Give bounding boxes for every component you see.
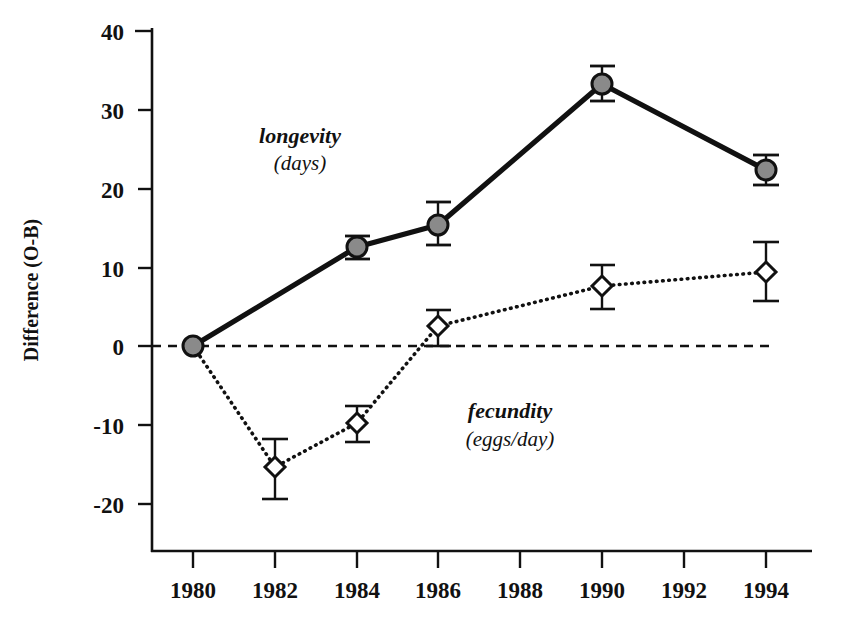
x-tick-label-1990: 1990 <box>579 578 625 603</box>
y-tick-label-10: 10 <box>101 257 124 282</box>
longevity-annotation-title: longevity <box>259 123 341 148</box>
longevity-point-1990 <box>592 74 612 94</box>
y-tick-label-minus10: -10 <box>93 414 124 439</box>
x-tick-label-1992: 1992 <box>661 578 707 603</box>
longevity-point-1986 <box>428 215 448 235</box>
fecundity-annotation-title: fecundity <box>468 398 553 423</box>
x-tick-label-1984: 1984 <box>334 578 381 603</box>
x-tick-label-1986: 1986 <box>415 578 461 603</box>
x-tick-label-1988: 1988 <box>497 578 543 603</box>
longevity-point-1980 <box>183 336 203 356</box>
difference-line-chart: Difference (O-B) 40 30 20 10 0 -10 -20 <box>0 0 851 630</box>
x-tick-label-1980: 1980 <box>170 578 216 603</box>
longevity-annotation-units: (days) <box>274 151 326 175</box>
y-tick-label-20: 20 <box>101 178 124 203</box>
x-tick-label-1982: 1982 <box>252 578 298 603</box>
chart-background <box>0 0 851 630</box>
longevity-point-1984 <box>347 237 367 257</box>
y-axis-label: Difference (O-B) <box>20 219 43 361</box>
y-tick-label-30: 30 <box>101 99 124 124</box>
chart-figure: Difference (O-B) 40 30 20 10 0 -10 -20 <box>0 0 851 630</box>
longevity-point-1994 <box>756 160 776 180</box>
y-tick-label-minus20: -20 <box>93 493 124 518</box>
fecundity-annotation-units: (eggs/day) <box>466 427 555 451</box>
x-tick-label-1994: 1994 <box>743 578 790 603</box>
y-tick-label-0: 0 <box>113 335 125 360</box>
y-tick-label-40: 40 <box>101 20 124 45</box>
